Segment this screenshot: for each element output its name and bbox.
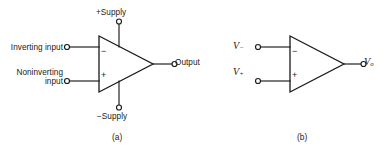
op-amp-triangle-a — [99, 36, 153, 92]
inverting-input-subscript-b: − — [239, 44, 243, 51]
output-label-a: Output — [175, 58, 200, 67]
negative-supply-terminal-a — [117, 105, 122, 110]
positive-supply-terminal-a — [117, 19, 122, 24]
subfigure-caption-a: (a) — [112, 133, 122, 142]
output-label-b: Vo — [364, 57, 373, 69]
subfigure-caption-b: (b) — [297, 133, 307, 142]
noninverting-pin-sign-b: + — [292, 71, 297, 80]
noninverting-input-label-b: V+ — [233, 67, 244, 79]
noninverting-input-label-a: Noninverting input — [5, 68, 63, 87]
inverting-input-label-b: V− — [233, 41, 244, 53]
noninverting-input-terminal-a — [65, 79, 70, 84]
noninverting-input-terminal-b — [256, 79, 261, 84]
inverting-input-terminal-b — [256, 45, 261, 50]
inverting-pin-sign-b: − — [292, 47, 297, 56]
inverting-input-terminal-a — [65, 45, 70, 50]
output-subscript-b: o — [370, 60, 373, 67]
op-amp-triangle-b — [290, 36, 344, 92]
negative-supply-label-a: −Supply — [97, 112, 127, 121]
inverting-input-label-a: Inverting input — [5, 43, 63, 52]
noninverting-input-subscript-b: + — [239, 70, 243, 77]
inverting-pin-sign-a: − — [101, 47, 106, 56]
noninverting-pin-sign-a: + — [101, 71, 106, 80]
op-amp-figure: Inverting input Noninverting input +Supp… — [0, 0, 385, 156]
positive-supply-label-a: +Supply — [96, 8, 126, 17]
